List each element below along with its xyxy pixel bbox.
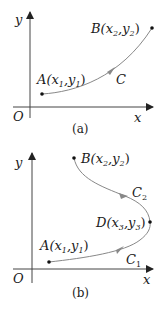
diagram-canvas: y x O C A(x1,y1) B(x2,y2) (a) y x O C1 [0,0,162,311]
point-a-marker [40,92,44,96]
point-d-marker [148,220,152,224]
x-axis-label-a: x [134,110,142,125]
y-axis-label-b: y [14,155,23,170]
point-d-label: D(x3,y3) [95,215,146,232]
origin-label-a: O [13,109,24,124]
caption-a: (a) [72,122,89,136]
x-axis-label-b: x [143,272,151,287]
point-a-label: A(x1,y1) [36,72,86,89]
figure-b: y x O C1 C2 A(x1,y1) B(x2,y2) D(x3,y3) (… [13,151,153,300]
curve-c1-label: C1 [126,252,141,269]
curve-c2-label: C2 [132,185,147,202]
curve-c-label: C [116,72,126,87]
point-a-label-b: A(x1,y1) [39,238,89,255]
point-b-label: B(x2,y2) [90,21,140,38]
y-axis-label-a: y [14,12,23,27]
point-b-label-b: B(x2,y2) [80,151,130,168]
curve-c-direction-arrow-icon [107,67,115,75]
caption-b: (b) [72,286,89,300]
figure-a: y x O C A(x1,y1) B(x2,y2) (a) [13,12,154,136]
point-a-marker-b [47,260,51,264]
origin-label-b: O [13,271,24,286]
point-b-marker-b [72,156,76,160]
point-b-marker [150,26,154,30]
curve-c2-direction-arrow-icon [119,193,128,199]
curve-c1-direction-arrow-icon [116,246,124,254]
